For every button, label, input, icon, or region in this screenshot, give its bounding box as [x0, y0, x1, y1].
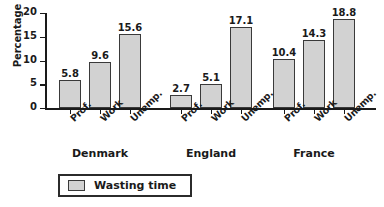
bar-value-label: 14.3	[302, 28, 327, 39]
bar-denmark-work[interactable]: 9.6	[89, 62, 111, 108]
y-tick-label-10: 10	[23, 54, 37, 65]
bar-value-label: 17.1	[229, 15, 254, 26]
legend-label-wasting-time: Wasting time	[94, 179, 176, 192]
bar-value-label: 15.6	[118, 22, 143, 33]
bar-england-unemp[interactable]: 17.1	[230, 27, 252, 108]
y-tick-20: 20	[40, 13, 45, 14]
bar-denmark-prof[interactable]: 5.8	[59, 80, 81, 108]
bar-france-unemp[interactable]: 18.8	[333, 19, 355, 108]
group-label-france: France	[293, 147, 334, 160]
y-tick-5: 5	[40, 84, 45, 85]
y-tick-label-5: 5	[30, 77, 37, 88]
bar-value-label: 18.8	[332, 7, 357, 18]
bar-value-label: 2.7	[172, 83, 190, 94]
y-tick-15: 15	[40, 37, 45, 38]
plot-area: 05101520 5.89.615.62.75.117.110.414.318.…	[45, 13, 376, 109]
y-tick-label-20: 20	[23, 6, 37, 17]
bar-value-label: 5.8	[61, 68, 79, 79]
bar-chart: Percentage 05101520 5.89.615.62.75.117.1…	[0, 0, 384, 207]
y-axis-title: Percentage	[12, 0, 23, 81]
legend-swatch-wasting-time	[68, 180, 85, 191]
y-tick-10: 10	[40, 61, 45, 62]
bar-value-label: 10.4	[272, 47, 297, 58]
group-label-denmark: Denmark	[72, 147, 128, 160]
bar-france-work[interactable]: 14.3	[303, 40, 325, 108]
bar-value-label: 5.1	[202, 72, 220, 83]
bar-value-label: 9.6	[91, 50, 109, 61]
legend: Wasting time	[58, 174, 192, 197]
y-axis-line	[45, 13, 47, 109]
group-label-england: England	[186, 147, 236, 160]
y-tick-label-0: 0	[30, 101, 37, 112]
bar-denmark-unemp[interactable]: 15.6	[119, 34, 141, 108]
bar-france-prof[interactable]: 10.4	[273, 59, 295, 108]
y-tick-label-15: 15	[23, 30, 37, 41]
y-tick-0: 0	[40, 108, 45, 109]
